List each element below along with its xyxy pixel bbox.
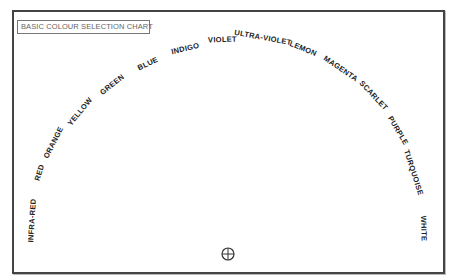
colour-label-violet: VIOLET: [207, 34, 236, 44]
colour-label-white: WHITE: [419, 215, 429, 241]
chart-title: BASIC COLOUR SELECTION CHART: [17, 20, 150, 34]
crosshair-circle-icon: [221, 247, 235, 261]
chart-frame: [12, 10, 445, 274]
